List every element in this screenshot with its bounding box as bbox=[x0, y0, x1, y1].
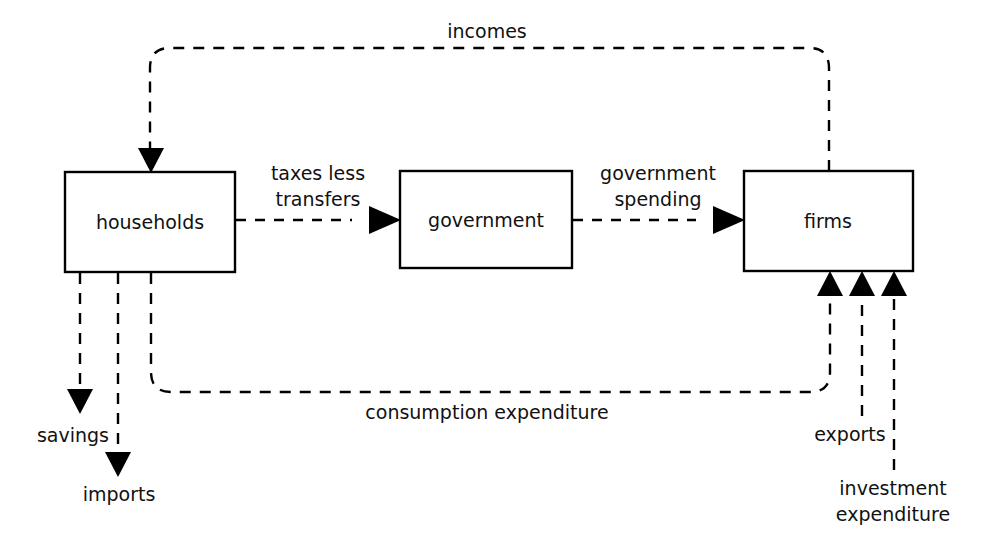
flow-label-investment-expenditure-line2: expenditure bbox=[836, 503, 950, 525]
arrowhead-exports bbox=[849, 271, 875, 296]
flow-label-exports: exports bbox=[814, 423, 885, 445]
flow-label-government-spending-line1: government bbox=[600, 162, 716, 184]
flow-label-savings: savings bbox=[37, 424, 109, 446]
flow-label-taxes-less-transfers-line2: transfers bbox=[276, 188, 361, 210]
flow-label-taxes-less-transfers-line1: taxes less bbox=[271, 162, 365, 184]
diagram-canvas: households government firms incomes taxe… bbox=[0, 0, 983, 539]
flow-line-incomes bbox=[150, 48, 829, 171]
node-label-households: households bbox=[96, 211, 204, 233]
node-label-government: government bbox=[428, 209, 544, 231]
flow-line-consumption-expenditure bbox=[151, 273, 830, 392]
arrowhead-investment-expenditure bbox=[881, 271, 907, 296]
flow-label-government-spending-line2: spending bbox=[614, 188, 701, 210]
node-label-firms: firms bbox=[804, 210, 852, 232]
arrowhead-imports bbox=[105, 452, 131, 477]
arrowhead-incomes bbox=[138, 148, 164, 173]
flow-label-incomes: incomes bbox=[447, 20, 527, 42]
circular-flow-diagram: households government firms incomes taxe… bbox=[0, 0, 983, 539]
arrowhead-government-spending bbox=[713, 206, 745, 234]
arrowhead-taxes-less-transfers bbox=[369, 206, 401, 234]
arrowhead-savings bbox=[67, 389, 93, 414]
flow-label-consumption-expenditure: consumption expenditure bbox=[365, 401, 608, 423]
flow-label-imports: imports bbox=[83, 483, 156, 505]
flow-label-investment-expenditure-line1: investment bbox=[839, 477, 946, 499]
arrowhead-consumption-expenditure bbox=[817, 271, 843, 296]
